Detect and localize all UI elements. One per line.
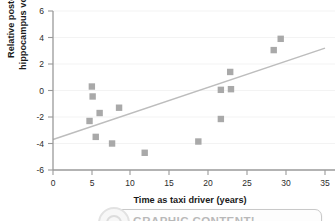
data-point	[227, 69, 233, 75]
y-tick-label: 6	[39, 6, 44, 16]
x-axis-tick-labels: 0 5 10 15 20 25 30 35	[51, 178, 330, 188]
data-point	[228, 86, 234, 92]
y-tick-label: 2	[39, 59, 44, 69]
y-axis-title-line1: Relative posterior	[6, 0, 16, 58]
y-axis-tick-labels: 6 4 2 0 -2 -4 -6	[36, 6, 44, 175]
banner-text: GRAPHIC CONTENT!	[133, 215, 255, 221]
scatter-chart: 6 4 2 0 -2 -4 -6 0 5 10 15 20 25 30	[0, 0, 335, 221]
y-tick-label: 4	[39, 33, 44, 43]
y-tick-label: 0	[39, 86, 44, 96]
data-point	[116, 105, 122, 111]
x-tick-label: 25	[242, 178, 252, 188]
y-tick-label: -2	[36, 112, 44, 122]
data-point	[278, 36, 284, 42]
x-tick-label: 20	[203, 178, 213, 188]
x-tick-label: 0	[51, 178, 56, 188]
x-tick-label: 15	[164, 178, 174, 188]
y-axis-ticks	[48, 11, 53, 170]
y-tick-label: -6	[36, 165, 44, 175]
data-point	[93, 134, 99, 140]
data-point	[89, 93, 95, 99]
data-point	[96, 110, 102, 116]
data-point	[218, 116, 224, 122]
data-point	[218, 87, 224, 93]
y-axis-title-line2: hippocampus volume	[18, 0, 28, 70]
x-tick-label: 35	[320, 178, 330, 188]
x-tick-label: 5	[90, 178, 95, 188]
chart-svg: 6 4 2 0 -2 -4 -6 0 5 10 15 20 25 30	[0, 0, 335, 221]
grid-lines	[53, 11, 335, 144]
data-point	[195, 138, 201, 144]
data-point	[271, 47, 277, 53]
data-point	[142, 150, 148, 156]
data-point	[86, 118, 92, 124]
x-tick-label: 30	[281, 178, 291, 188]
x-axis-ticks	[53, 170, 325, 175]
x-tick-label: 10	[125, 178, 135, 188]
bottom-banner: GRAPHIC CONTENT!	[0, 203, 335, 221]
data-point	[109, 140, 115, 146]
data-point	[89, 83, 95, 89]
y-tick-label: -4	[36, 139, 44, 149]
